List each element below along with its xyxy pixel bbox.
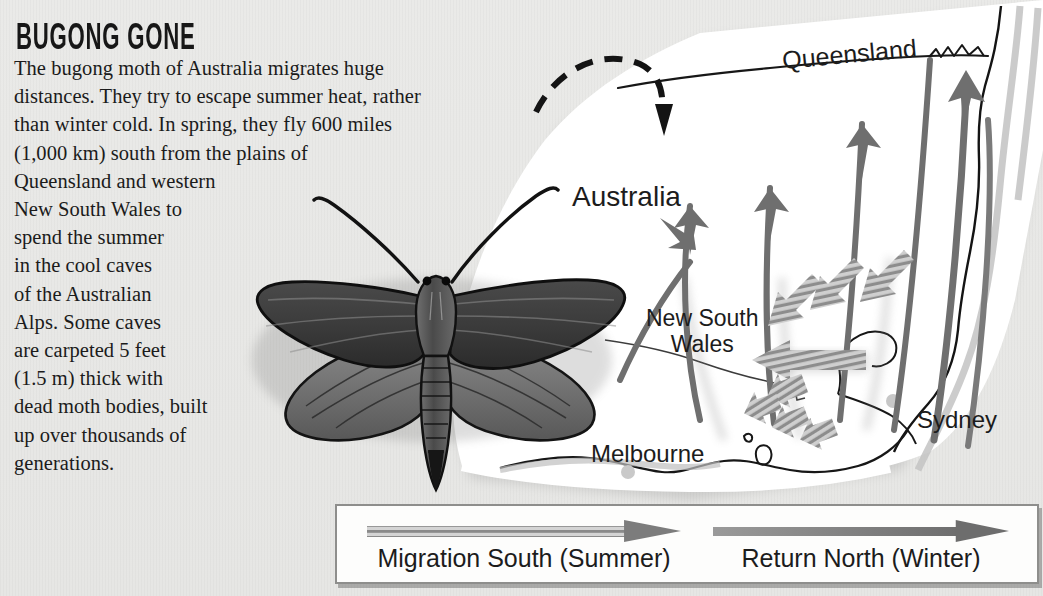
body-line: (1,000 km) south from the plains of [14,139,550,167]
body-line: than winter cold. In spring, they fly 60… [14,110,550,138]
body-line: dead moth bodies, built [14,392,550,420]
body-line: Alps. Some caves [14,308,550,336]
body-line: in the cool caves [14,251,550,279]
article-body: The bugong moth of Australia migrates hu… [14,54,550,477]
body-line: New South Wales to [14,195,550,223]
legend-arrow-north-icon [713,518,1009,544]
map-label-sydney: Sydney [917,406,997,434]
map-label-melbourne: Melbourne [591,440,704,468]
map-label-nsw-line1: New South [646,305,759,331]
article-text-column: BUGONG GONE The bugong moth of Australia… [14,18,544,477]
legend-label-return-north: Return North (Winter) [705,544,1017,573]
infographic-page: BUGONG GONE The bugong moth of Australia… [0,0,1043,596]
map-legend: Migration South (Summer) Return North (W… [335,504,1039,584]
body-line: are carpeted 5 feet [14,336,550,364]
body-line: of the Australian [14,280,550,308]
map-label-new-south-wales: New South Wales [646,305,759,357]
body-line: generations. [14,449,550,477]
body-line: spend the summer [14,223,550,251]
legend-arrow-south-icon [367,518,681,544]
body-line: distances. They try to escape summer hea… [14,82,550,110]
body-line: Queensland and western [14,167,550,195]
map-label-australia: Australia [572,181,681,213]
map-label-nsw-line2: Wales [646,331,759,357]
legend-label-migration-south: Migration South (Summer) [359,544,689,573]
legend-item-return-north: Return North (Winter) [705,506,1017,582]
body-line: up over thousands of [14,421,550,449]
body-line: (1.5 m) thick with [14,364,550,392]
page-title: BUGONG GONE [16,18,407,55]
body-line: The bugong moth of Australia migrates hu… [14,54,550,82]
legend-item-migration-south: Migration South (Summer) [359,506,689,582]
